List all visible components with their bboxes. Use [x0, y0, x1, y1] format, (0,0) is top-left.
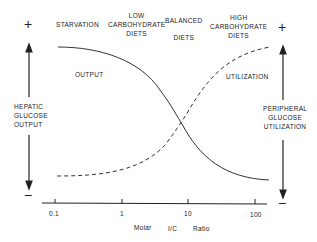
x-axis-label-ratio: Ratio — [193, 224, 210, 233]
left-minus-sign: − — [24, 188, 32, 202]
x-tick-10: 10 — [184, 209, 192, 218]
hepatic-glucose-output-label: HEPATIC GLUCOSE OUTPUT — [14, 102, 48, 129]
left-plus-sign: + — [24, 17, 32, 31]
region-balanced: BALANCED DIETS — [165, 12, 202, 46]
region-starvation: STARVATION — [56, 20, 99, 29]
region-high-carbohydrate: HIGH CARBOHYDRATE DIETS — [210, 13, 267, 40]
right-plus-sign: + — [278, 20, 286, 34]
output-curve — [58, 47, 269, 180]
x-tick-0-1: 0.1 — [49, 209, 59, 218]
x-axis — [42, 199, 267, 204]
region-low-carbohydrate: LOW CARBOHYDRATE DIETS — [108, 11, 165, 38]
utilization-curve-label: UTILIZATION — [226, 72, 269, 81]
output-curve-label: OUTPUT — [75, 70, 104, 79]
peripheral-glucose-utilization-label: PERIPHERAL GLUCOSE UTILIZATION — [263, 104, 307, 131]
utilization-curve — [57, 47, 270, 176]
x-axis-label-ic: I/C — [168, 224, 177, 233]
x-axis-label-molar: Molar — [134, 223, 152, 232]
x-tick-1: 1 — [120, 209, 124, 218]
x-tick-100: 100 — [250, 210, 262, 219]
right-minus-sign: − — [278, 196, 286, 210]
